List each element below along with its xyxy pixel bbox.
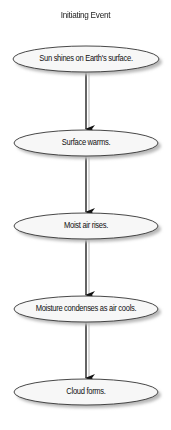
arrow-n4-n5 xyxy=(86,322,89,378)
node-label-moisture-condenses: Moisture condenses as air cools. xyxy=(36,303,137,313)
flowchart xyxy=(0,0,171,430)
arrow-n1-n2 xyxy=(86,72,89,129)
arrow-n3-n4 xyxy=(86,239,89,295)
node-label-surface-warms: Surface warms. xyxy=(62,137,110,147)
node-label-moist-air-rises: Moist air rises. xyxy=(64,220,108,230)
node-label-cloud-forms: Cloud forms. xyxy=(66,386,105,396)
arrow-n2-n3 xyxy=(86,156,89,212)
node-label-sun-shines: Sun shines on Earth's surface. xyxy=(39,53,132,63)
